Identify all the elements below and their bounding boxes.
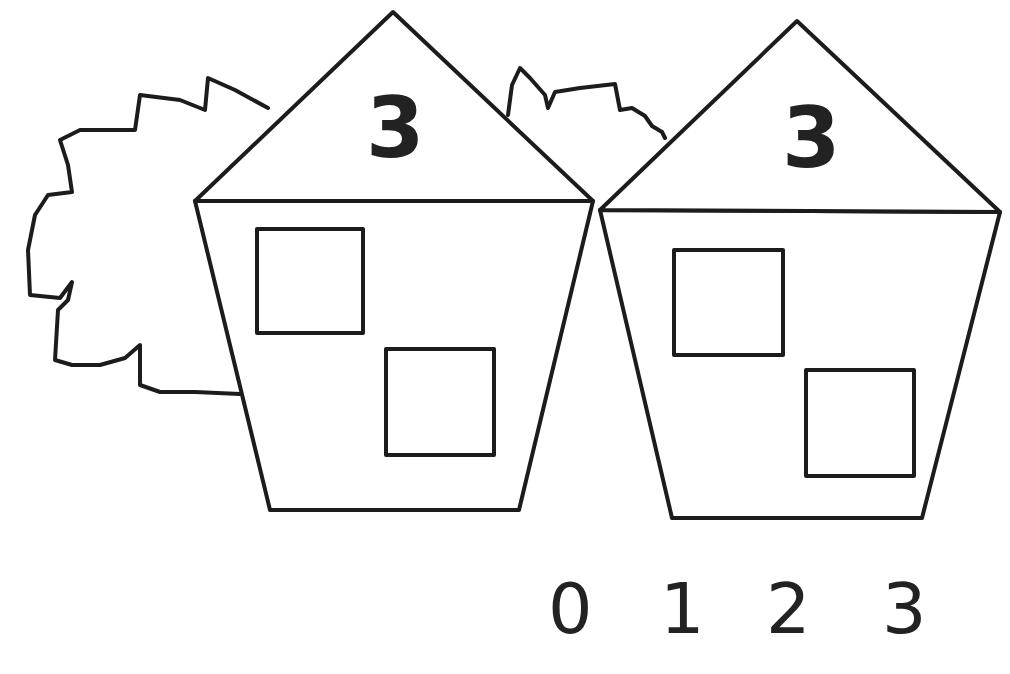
house-1-roof-number: 3 <box>366 86 424 170</box>
answer-choice-2[interactable]: 2 <box>766 574 811 644</box>
worksheet-drawing <box>0 0 1010 674</box>
bush-middle-icon <box>508 68 665 138</box>
answer-choice-1[interactable]: 1 <box>660 574 705 644</box>
house-2-roof-number: 3 <box>782 96 840 180</box>
answer-choice-0[interactable]: 0 <box>548 574 593 644</box>
answer-choice-3[interactable]: 3 <box>882 574 927 644</box>
